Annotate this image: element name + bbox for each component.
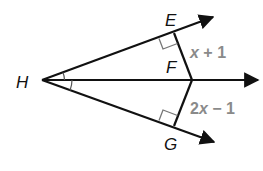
length-label-gf: 2x − 1: [190, 100, 235, 117]
label-e: E: [165, 11, 177, 30]
length-label-ef: x + 1: [189, 44, 226, 61]
angle-mark-fhg: [70, 80, 72, 91]
right-angle-mark-g: [159, 110, 178, 121]
label-h: H: [16, 73, 29, 92]
angle-mark-ehf: [63, 73, 65, 81]
length-rest: + 1: [199, 44, 226, 61]
length-coef: 2: [190, 100, 199, 117]
label-f: F: [166, 58, 178, 77]
angle-bisector-diagram: H E F G x + 1 2x − 1: [0, 0, 263, 171]
right-angle-mark-e: [159, 39, 178, 50]
label-g: G: [164, 135, 177, 154]
length-rest: − 1: [208, 100, 235, 117]
